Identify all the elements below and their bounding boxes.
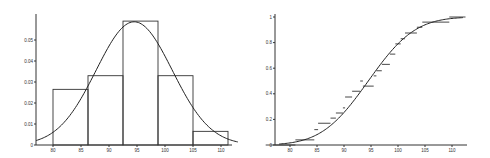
histogram-chart: 00.010.020.030.040.0580859095100105110 xyxy=(0,0,245,158)
x-tick-label: 80 xyxy=(287,148,293,153)
histogram-bar xyxy=(158,76,193,145)
normal-cdf-curve xyxy=(279,18,463,144)
x-tick-label: 105 xyxy=(421,148,429,153)
normal-density-curve xyxy=(36,22,238,142)
x-tick-label: 85 xyxy=(314,148,320,153)
y-tick-label: 0.6 xyxy=(266,66,273,71)
y-tick-label: 1 xyxy=(269,15,272,20)
y-tick-label: 0.05 xyxy=(24,38,33,43)
x-tick-label: 100 xyxy=(394,148,402,153)
histogram-bar xyxy=(193,131,228,145)
y-tick-label: 0 xyxy=(30,143,33,148)
x-tick-label: 105 xyxy=(189,148,197,153)
y-tick-label: 0.8 xyxy=(266,40,273,45)
histogram-bar xyxy=(53,89,88,145)
x-tick-label: 95 xyxy=(368,148,374,153)
x-tick-label: 85 xyxy=(78,148,84,153)
x-tick-label: 110 xyxy=(217,148,225,153)
cdf-chart: 00.20.40.60.8180859095100105110 xyxy=(245,0,490,158)
histogram-bar xyxy=(88,76,123,145)
y-tick-label: 0.02 xyxy=(24,101,33,106)
x-tick-label: 110 xyxy=(448,148,456,153)
x-tick-label: 90 xyxy=(341,148,347,153)
histogram-bar xyxy=(123,21,158,145)
y-tick-label: 0.04 xyxy=(24,59,33,64)
y-tick-label: 0.01 xyxy=(24,122,33,127)
y-tick-label: 0.4 xyxy=(266,91,273,96)
x-tick-label: 90 xyxy=(106,148,112,153)
histogram-panel: 00.010.020.030.040.0580859095100105110 xyxy=(0,0,245,158)
cdf-panel: 00.20.40.60.8180859095100105110 xyxy=(245,0,490,158)
y-tick-label: 0.03 xyxy=(24,80,33,85)
y-tick-label: 0.2 xyxy=(266,117,273,122)
x-tick-label: 100 xyxy=(161,148,169,153)
x-tick-label: 95 xyxy=(134,148,140,153)
x-tick-label: 80 xyxy=(50,148,56,153)
